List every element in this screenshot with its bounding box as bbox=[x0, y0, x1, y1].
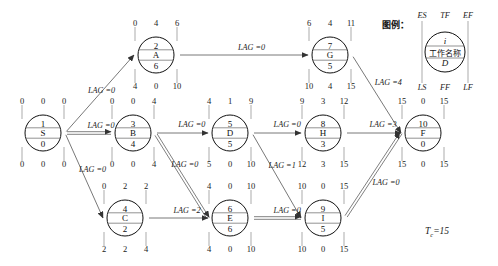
node-S-ef: 0 bbox=[57, 97, 71, 106]
lag-label-C-E: LAG =2 bbox=[173, 206, 200, 215]
legend-tf: TF bbox=[436, 11, 454, 20]
edge-S-B bbox=[67, 132, 111, 135]
legend-lf: LF bbox=[459, 83, 477, 92]
node-H-ff: 3 bbox=[316, 160, 330, 169]
node-F-ff: 0 bbox=[416, 160, 430, 169]
legend-node-id: i bbox=[432, 36, 458, 46]
node-G-id: 7 bbox=[317, 41, 343, 51]
tc-value: =15 bbox=[433, 226, 449, 236]
edge-I-F bbox=[345, 132, 402, 217]
node-F-duration: 0 bbox=[410, 139, 436, 149]
node-G-duration: 5 bbox=[317, 61, 343, 71]
lag-label-G-F: LAG =4 bbox=[375, 78, 402, 87]
node-A-tf: 4 bbox=[149, 19, 163, 28]
lag-label-A-G: LAG =0 bbox=[238, 43, 265, 52]
node-H-ls: 12 bbox=[295, 160, 309, 169]
node-C-tf: 2 bbox=[118, 182, 132, 191]
node-S-es: 0 bbox=[15, 97, 29, 106]
node-D-ef: 9 bbox=[244, 97, 258, 106]
node-F-ls: 15 bbox=[395, 160, 409, 169]
node-E-duration: 6 bbox=[217, 224, 243, 234]
node-G-tf: 4 bbox=[323, 19, 337, 28]
node-E-ef: 10 bbox=[244, 182, 258, 191]
node-B-id: 3 bbox=[120, 119, 146, 129]
node-A-lf: 10 bbox=[170, 82, 184, 91]
node-S-ff: 0 bbox=[36, 160, 50, 169]
lag-label-D-H: LAG =0 bbox=[274, 120, 301, 129]
legend-ff: FF bbox=[436, 83, 454, 92]
node-G-lf: 15 bbox=[344, 82, 358, 91]
node-E-id: 6 bbox=[217, 204, 243, 214]
lag-label-S-A: LAG =0 bbox=[88, 86, 115, 95]
node-C-name: C bbox=[112, 213, 138, 223]
lag-label-B-D: LAG =0 bbox=[178, 120, 205, 129]
node-S-lf: 0 bbox=[57, 160, 71, 169]
node-S-name: S bbox=[30, 128, 56, 138]
node-B-ef: 4 bbox=[147, 97, 161, 106]
legend-node-name: 工作名称 bbox=[425, 47, 465, 58]
node-A-duration: 6 bbox=[143, 61, 169, 71]
node-A-ff: 0 bbox=[149, 82, 163, 91]
node-B-name: B bbox=[120, 128, 146, 138]
lag-label-I-F: LAG =0 bbox=[373, 178, 400, 187]
legend-ef: EF bbox=[459, 11, 477, 20]
node-C-ef: 2 bbox=[139, 182, 153, 191]
node-I-id: 9 bbox=[310, 204, 336, 214]
node-C-id: 4 bbox=[112, 204, 138, 214]
legend-es: ES bbox=[413, 11, 431, 20]
edge-S-C bbox=[66, 135, 103, 218]
node-I-lf: 15 bbox=[337, 245, 351, 254]
node-G-es: 6 bbox=[302, 19, 316, 28]
legend-title: 图例： bbox=[382, 18, 409, 31]
node-G-ls: 10 bbox=[302, 82, 316, 91]
node-A-es: 0 bbox=[128, 19, 142, 28]
node-I-es: 10 bbox=[295, 182, 309, 191]
node-E-lf: 10 bbox=[244, 245, 258, 254]
lag-label-E-I: LAG =0 bbox=[274, 206, 301, 215]
node-I-ff: 0 bbox=[316, 245, 330, 254]
node-A-name: A bbox=[143, 50, 169, 60]
node-B-tf: 0 bbox=[126, 97, 140, 106]
node-D-name: D bbox=[217, 128, 243, 138]
node-H-id: 8 bbox=[310, 119, 336, 129]
node-A-ef: 6 bbox=[170, 19, 184, 28]
node-D-lf: 10 bbox=[244, 160, 258, 169]
node-I-tf: 0 bbox=[316, 182, 330, 191]
node-H-es: 9 bbox=[295, 97, 309, 106]
legend-ls: LS bbox=[413, 83, 431, 92]
node-A-id: 2 bbox=[143, 41, 169, 51]
node-B-duration: 4 bbox=[120, 139, 146, 149]
project-duration-label: Tc=15 bbox=[425, 226, 449, 238]
node-H-duration: 3 bbox=[310, 139, 336, 149]
node-B-es: 0 bbox=[105, 97, 119, 106]
node-H-ef: 12 bbox=[337, 97, 351, 106]
node-I-ls: 10 bbox=[295, 245, 309, 254]
node-D-tf: 1 bbox=[223, 97, 237, 106]
node-D-id: 5 bbox=[217, 119, 243, 129]
node-B-ff: 0 bbox=[126, 160, 140, 169]
node-G-name: G bbox=[317, 50, 343, 60]
node-F-tf: 0 bbox=[416, 97, 430, 106]
node-S-ls: 0 bbox=[15, 160, 29, 169]
edge-E-I bbox=[254, 217, 301, 220]
lag-label-H-F: LAG =3 bbox=[369, 120, 396, 129]
node-B-lf: 4 bbox=[147, 160, 161, 169]
node-F-es: 15 bbox=[395, 97, 409, 106]
network-diagram-canvas: 0000001S004640102A60040043B40222244C2419… bbox=[0, 0, 498, 266]
node-D-es: 4 bbox=[202, 97, 216, 106]
node-C-ls: 2 bbox=[97, 245, 111, 254]
node-I-name: I bbox=[310, 213, 336, 223]
node-D-ls: 5 bbox=[202, 160, 216, 169]
node-C-ff: 2 bbox=[118, 245, 132, 254]
node-E-tf: 0 bbox=[223, 182, 237, 191]
node-I-duration: 5 bbox=[310, 224, 336, 234]
lag-label-S-C: LAG =0 bbox=[79, 165, 106, 174]
node-I-ef: 15 bbox=[337, 182, 351, 191]
node-E-name: E bbox=[217, 213, 243, 223]
lag-label-D-I: LAG =1 bbox=[269, 161, 296, 170]
node-D-ff: 0 bbox=[223, 160, 237, 169]
node-G-ff: 4 bbox=[323, 82, 337, 91]
node-F-name: F bbox=[410, 128, 436, 138]
node-E-ff: 0 bbox=[223, 245, 237, 254]
node-C-es: 0 bbox=[97, 182, 111, 191]
